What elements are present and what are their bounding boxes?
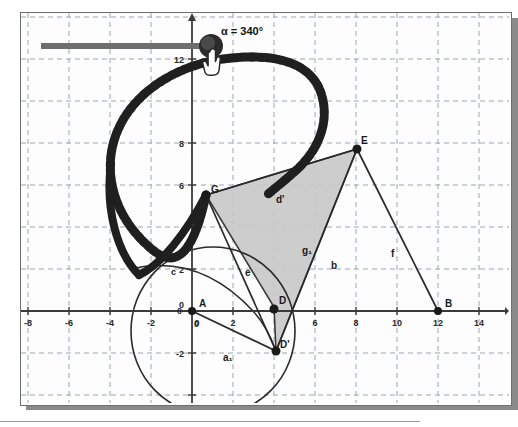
- origin-y-zero: 0: [177, 306, 182, 316]
- svg-text:8: 8: [179, 139, 184, 149]
- alpha-slider[interactable]: [41, 34, 223, 58]
- svg-text:-6: -6: [65, 318, 73, 328]
- svg-text:8: 8: [353, 318, 358, 328]
- svg-text:-2: -2: [147, 318, 155, 328]
- svg-text:6: 6: [179, 181, 184, 191]
- label-f: f: [391, 248, 395, 259]
- slider-value-label: α = 340°: [221, 25, 263, 37]
- label-A: A: [199, 298, 206, 309]
- origin-x-zero: 0: [194, 319, 199, 329]
- svg-text:2: 2: [179, 265, 184, 275]
- point-D: [270, 305, 279, 314]
- point-G: [202, 191, 211, 200]
- slider-handle-highlight: [201, 36, 215, 50]
- svg-text:6: 6: [312, 318, 317, 328]
- svg-text:10: 10: [392, 318, 402, 328]
- label-g1: g₁: [302, 245, 312, 256]
- svg-text:12: 12: [174, 55, 184, 65]
- label-a1: a₁: [223, 352, 233, 363]
- x-axis-tick-labels: -8 -6 -4 -2 0 2 6 8 10 12 14: [24, 318, 484, 328]
- label-G: G: [211, 184, 219, 195]
- geometry-applet-panel: -8 -6 -4 -2 0 2 6 8 10 12 14 12: [20, 12, 512, 406]
- svg-text:14: 14: [474, 318, 484, 328]
- svg-text:2: 2: [230, 318, 235, 328]
- label-D: D: [279, 295, 286, 306]
- label-d-prime: d': [276, 194, 285, 205]
- label-e: e: [245, 267, 251, 278]
- point-B: [434, 307, 442, 315]
- page-rule: [0, 421, 420, 422]
- label-B: B: [445, 298, 452, 309]
- construction-circle[interactable]: [131, 247, 295, 403]
- label-D-prime: D': [280, 339, 290, 350]
- label-c: c: [171, 267, 176, 277]
- graphics-view[interactable]: -8 -6 -4 -2 0 2 6 8 10 12 14 12: [21, 13, 509, 403]
- point-A: [188, 307, 196, 315]
- label-E: E: [361, 135, 368, 146]
- svg-text:12: 12: [433, 318, 443, 328]
- svg-text:-4: -4: [106, 318, 114, 328]
- segment-a1: [192, 311, 276, 351]
- svg-text:-2: -2: [176, 349, 184, 359]
- svg-text:-8: -8: [24, 318, 32, 328]
- label-b: b: [331, 260, 337, 271]
